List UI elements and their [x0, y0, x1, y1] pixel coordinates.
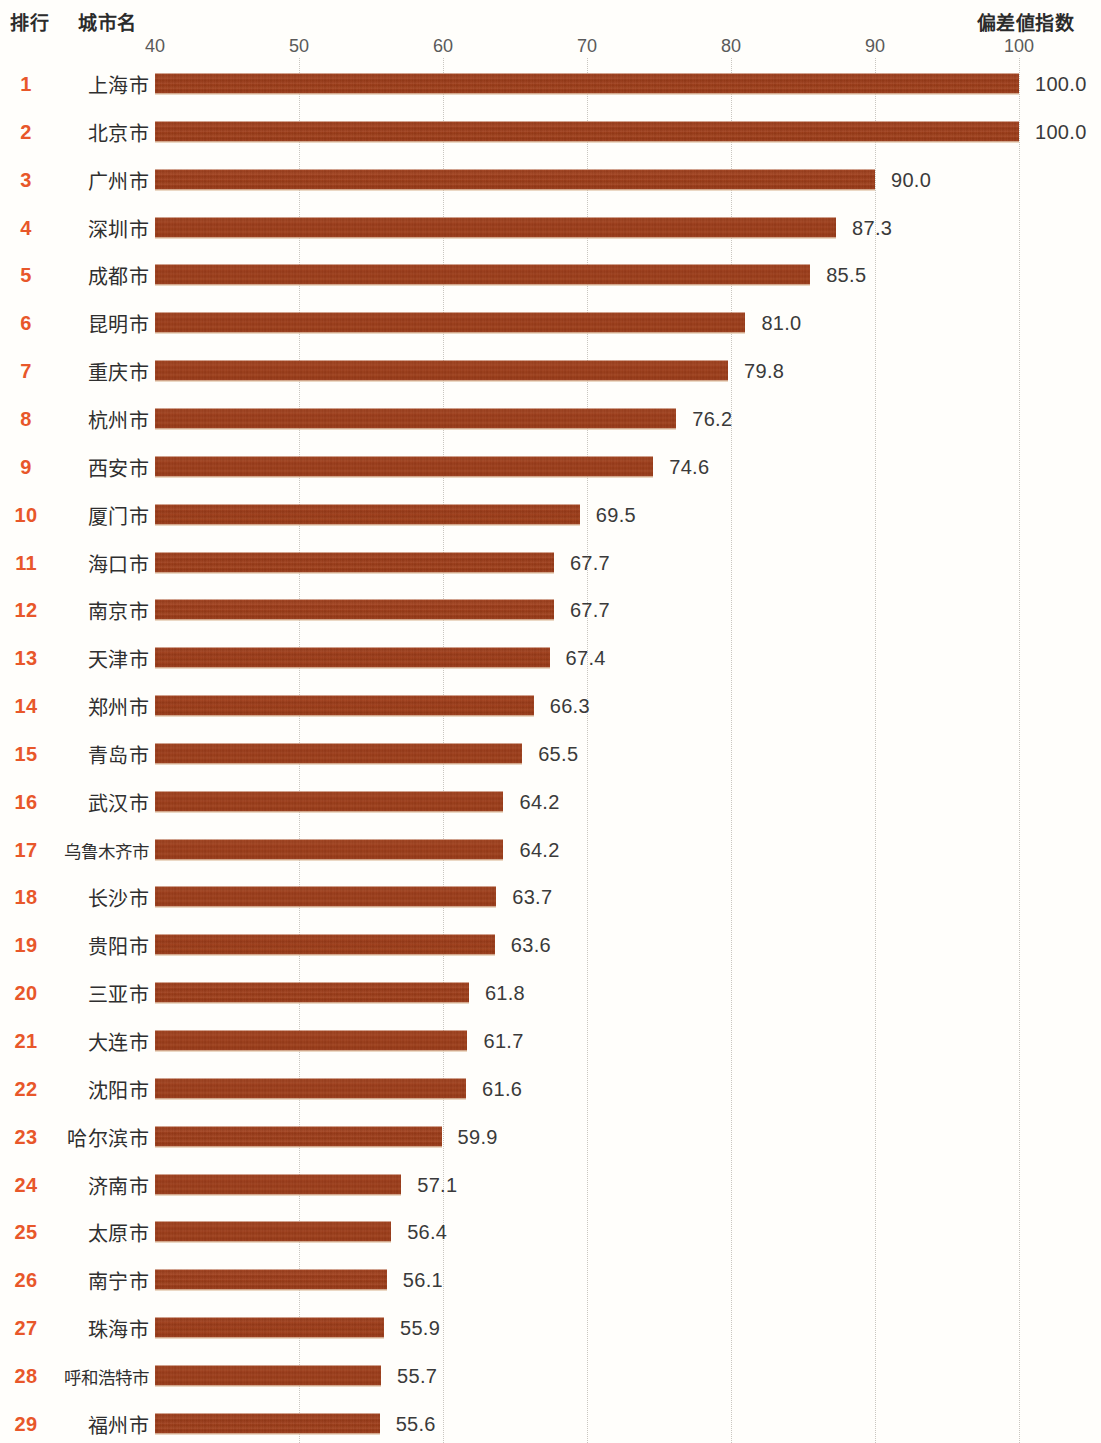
- row-value-label: 66.3: [550, 695, 590, 718]
- chart-row[interactable]: 7重庆市79.8: [0, 347, 1101, 395]
- row-bar[interactable]: [155, 1031, 467, 1052]
- row-bar[interactable]: [155, 983, 469, 1004]
- row-bar[interactable]: [155, 743, 522, 764]
- row-rank: 4: [0, 216, 52, 239]
- chart-row[interactable]: 23哈尔滨市59.9: [0, 1113, 1101, 1161]
- row-bar[interactable]: [155, 696, 534, 717]
- row-bar[interactable]: [155, 1270, 387, 1291]
- row-value-label: 64.2: [519, 790, 559, 813]
- row-value-label: 100.0: [1035, 73, 1087, 96]
- row-city-name: 郑州市: [52, 692, 149, 721]
- row-bar[interactable]: [155, 504, 580, 525]
- row-value-label: 76.2: [692, 407, 732, 430]
- row-bar[interactable]: [155, 1174, 401, 1195]
- row-city-name: 济南市: [52, 1170, 149, 1199]
- row-bar[interactable]: [155, 1365, 381, 1386]
- row-bar[interactable]: [155, 839, 503, 860]
- row-bar[interactable]: [155, 791, 503, 812]
- chart-row[interactable]: 2北京市100.0: [0, 108, 1101, 156]
- row-rank: 25: [0, 1221, 52, 1244]
- row-value-label: 100.0: [1035, 120, 1087, 143]
- chart-row[interactable]: 29福州市55.6: [0, 1400, 1101, 1443]
- row-city-name: 北京市: [52, 117, 149, 146]
- chart-row[interactable]: 22沈阳市61.6: [0, 1065, 1101, 1113]
- row-city-name: 厦门市: [52, 500, 149, 529]
- chart-row[interactable]: 18长沙市63.7: [0, 873, 1101, 921]
- row-bar[interactable]: [155, 1078, 466, 1099]
- row-bar[interactable]: [155, 1222, 391, 1243]
- chart-row[interactable]: 26南宁市56.1: [0, 1256, 1101, 1304]
- row-bar[interactable]: [155, 313, 745, 334]
- chart-row[interactable]: 27珠海市55.9: [0, 1304, 1101, 1352]
- row-value-label: 63.6: [511, 934, 551, 957]
- row-bar[interactable]: [155, 456, 653, 477]
- row-rank: 8: [0, 407, 52, 430]
- chart-row[interactable]: 20三亚市61.8: [0, 969, 1101, 1017]
- row-rank: 26: [0, 1269, 52, 1292]
- row-bar[interactable]: [155, 648, 550, 669]
- chart-row[interactable]: 14郑州市66.3: [0, 682, 1101, 730]
- chart-row[interactable]: 3广州市90.0: [0, 156, 1101, 204]
- chart-row[interactable]: 25太原市56.4: [0, 1208, 1101, 1256]
- row-value-label: 74.6: [669, 455, 709, 478]
- row-value-label: 90.0: [891, 168, 931, 191]
- row-rank: 6: [0, 312, 52, 335]
- chart-row[interactable]: 11海口市67.7: [0, 539, 1101, 587]
- row-city-name: 哈尔滨市: [52, 1122, 149, 1151]
- row-city-name: 西安市: [52, 452, 149, 481]
- row-rank: 24: [0, 1173, 52, 1196]
- row-bar[interactable]: [155, 74, 1019, 95]
- row-bar[interactable]: [155, 217, 836, 238]
- row-value-label: 56.1: [403, 1269, 443, 1292]
- row-bar[interactable]: [155, 600, 554, 621]
- row-bar[interactable]: [155, 1413, 380, 1434]
- row-bar[interactable]: [155, 361, 728, 382]
- chart-row[interactable]: 10厦门市69.5: [0, 491, 1101, 539]
- row-bar[interactable]: [155, 1318, 384, 1339]
- row-bar[interactable]: [155, 1126, 442, 1147]
- row-bar[interactable]: [155, 552, 554, 573]
- row-city-name: 杭州市: [52, 404, 149, 433]
- chart-row[interactable]: 15青岛市65.5: [0, 730, 1101, 778]
- row-value-label: 87.3: [852, 216, 892, 239]
- chart-row[interactable]: 21大连市61.7: [0, 1017, 1101, 1065]
- chart-row[interactable]: 4深圳市87.3: [0, 204, 1101, 252]
- chart-row[interactable]: 28呼和浩特市55.7: [0, 1352, 1101, 1400]
- row-city-name: 三亚市: [52, 979, 149, 1008]
- row-value-label: 67.4: [566, 647, 606, 670]
- ranking-bar-chart: 排行 城市名 偏差値指数 405060708090100 1上海市100.02北…: [0, 0, 1101, 1443]
- row-bar[interactable]: [155, 121, 1019, 142]
- chart-row[interactable]: 9西安市74.6: [0, 443, 1101, 491]
- chart-row[interactable]: 19贵阳市63.6: [0, 921, 1101, 969]
- chart-row[interactable]: 12南京市67.7: [0, 586, 1101, 634]
- row-value-label: 59.9: [458, 1125, 498, 1148]
- chart-row[interactable]: 24济南市57.1: [0, 1161, 1101, 1209]
- row-value-label: 67.7: [570, 599, 610, 622]
- row-bar[interactable]: [155, 408, 676, 429]
- row-bar[interactable]: [155, 265, 810, 286]
- row-city-name: 重庆市: [52, 357, 149, 386]
- row-bar[interactable]: [155, 935, 495, 956]
- row-rank: 18: [0, 886, 52, 909]
- chart-row[interactable]: 8杭州市76.2: [0, 395, 1101, 443]
- row-rank: 22: [0, 1077, 52, 1100]
- chart-row[interactable]: 16武汉市64.2: [0, 778, 1101, 826]
- chart-row[interactable]: 5成都市85.5: [0, 251, 1101, 299]
- chart-row[interactable]: 6昆明市81.0: [0, 299, 1101, 347]
- row-rank: 17: [0, 838, 52, 861]
- chart-row[interactable]: 17乌鲁木齐市64.2: [0, 826, 1101, 874]
- row-city-name: 青岛市: [52, 739, 149, 768]
- row-rank: 15: [0, 742, 52, 765]
- row-bar[interactable]: [155, 887, 496, 908]
- row-value-label: 65.5: [538, 742, 578, 765]
- chart-row[interactable]: 1上海市100.0: [0, 60, 1101, 108]
- row-rank: 28: [0, 1364, 52, 1387]
- row-city-name: 南京市: [52, 596, 149, 625]
- row-city-name: 福州市: [52, 1409, 149, 1438]
- row-rank: 5: [0, 264, 52, 287]
- row-city-name: 呼和浩特市: [52, 1363, 149, 1388]
- row-rank: 23: [0, 1125, 52, 1148]
- row-value-label: 63.7: [512, 886, 552, 909]
- chart-row[interactable]: 13天津市67.4: [0, 634, 1101, 682]
- row-bar[interactable]: [155, 169, 875, 190]
